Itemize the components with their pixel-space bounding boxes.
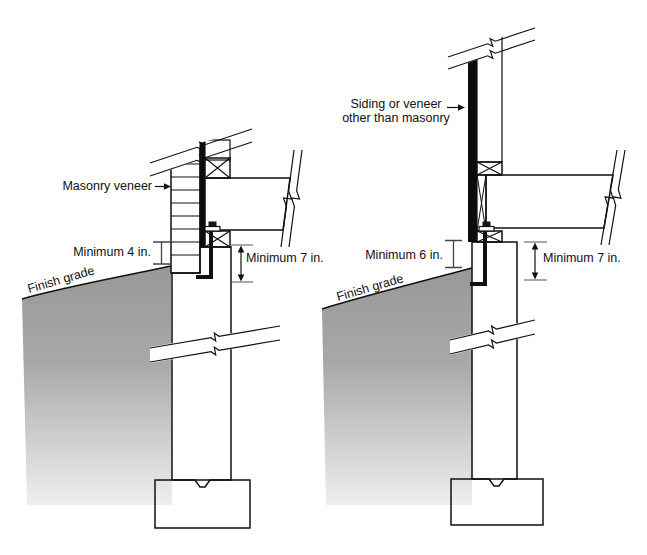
min-4in-bracket xyxy=(153,242,170,264)
anchor-bolt-washer-right xyxy=(479,227,494,232)
min-7in-arrowhead-down-left xyxy=(238,275,245,282)
rim-joist-left xyxy=(205,158,230,178)
sill-plate-right xyxy=(477,231,502,242)
min-6in-bracket xyxy=(445,241,462,268)
finish-grade-ground-right xyxy=(322,268,472,505)
rim-joist-x-brace xyxy=(205,158,230,178)
sill-plate-x-brace-right xyxy=(477,231,502,242)
masonry-veneer-label: Masonry veneer xyxy=(62,179,152,193)
masonry-veneer-wall xyxy=(171,140,200,273)
siding-arrowhead xyxy=(458,104,465,110)
floor-framing-band-left xyxy=(205,178,290,230)
sill-plate-x-brace xyxy=(205,231,230,247)
min-7in-arrowhead-up-left xyxy=(238,246,245,253)
min-7in-arrowhead-down-right xyxy=(532,273,539,280)
floor-framing-band-right xyxy=(486,175,613,228)
min-4in-label: Minimum 4 in. xyxy=(73,245,151,259)
brick-course-joints xyxy=(171,164,200,255)
sill-plate-left xyxy=(205,231,230,247)
foundation-wall-left xyxy=(172,247,231,480)
finish-grade-ground-left xyxy=(22,266,172,505)
rim-joist-right xyxy=(477,162,502,175)
min-6in-label: Minimum 6 in. xyxy=(365,248,443,262)
masonry-veneer-arrowhead xyxy=(164,183,171,189)
min-7in-arrowhead-up-right xyxy=(532,243,539,250)
foundation-wall-right xyxy=(472,242,517,479)
siding-label-line2: other than masonry xyxy=(342,111,450,125)
right-diagram-siding: Finish grade xyxy=(322,28,625,525)
foundation-detail-diagram: Finish grade xyxy=(0,0,647,555)
min-7in-label-left: Minimum 7 in. xyxy=(246,251,324,265)
left-diagram-masonry-veneer: Finish grade xyxy=(22,129,324,528)
figure-canvas: Finish grade xyxy=(0,0,647,555)
siding-label-line1: Siding or veneer xyxy=(350,97,441,111)
wall-assembly-right xyxy=(468,30,502,242)
rim-joist-x-brace-right xyxy=(477,162,502,175)
anchor-bolt-washer-left xyxy=(205,227,220,232)
wall-assembly-left xyxy=(171,140,230,273)
min-7in-label-right: Minimum 7 in. xyxy=(543,251,621,265)
